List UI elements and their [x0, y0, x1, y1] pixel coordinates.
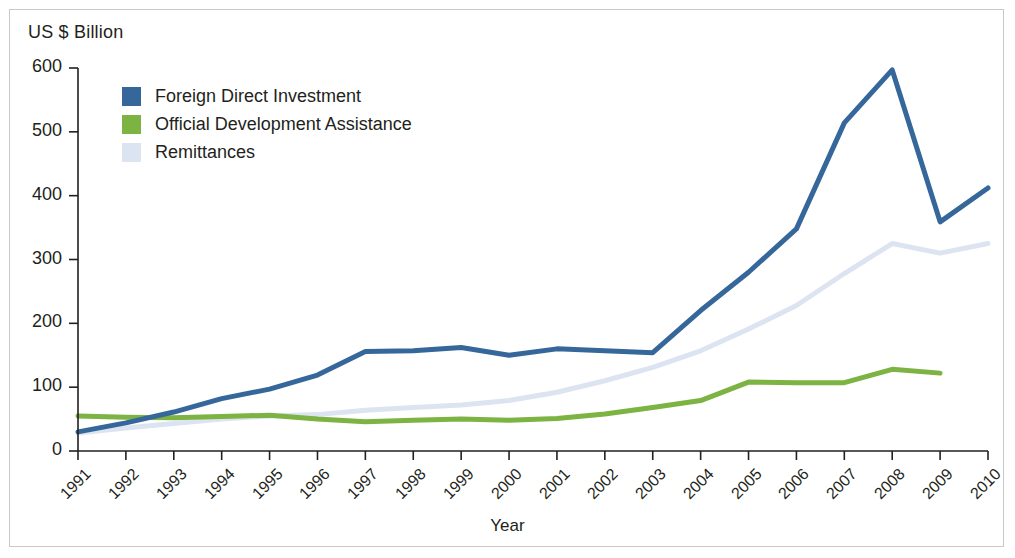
series-line-remittances [78, 244, 988, 434]
y-tick-label-100: 100 [10, 375, 62, 396]
series-line-foreign-direct-investment [78, 70, 988, 432]
series-line-official-development-assistance [78, 369, 940, 421]
y-tick-label-500: 500 [10, 120, 62, 141]
plot-stage: US $ Billion Foreign Direct Investment O… [0, 0, 1015, 558]
x-axis-title: Year [0, 516, 1015, 536]
y-tick-label-600: 600 [10, 56, 62, 77]
chart-figure: US $ Billion Foreign Direct Investment O… [0, 0, 1015, 558]
y-tick-label-0: 0 [10, 439, 62, 460]
y-tick-label-200: 200 [10, 311, 62, 332]
series-layer [78, 70, 988, 433]
y-tick-label-300: 300 [10, 248, 62, 269]
y-tick-label-400: 400 [10, 184, 62, 205]
